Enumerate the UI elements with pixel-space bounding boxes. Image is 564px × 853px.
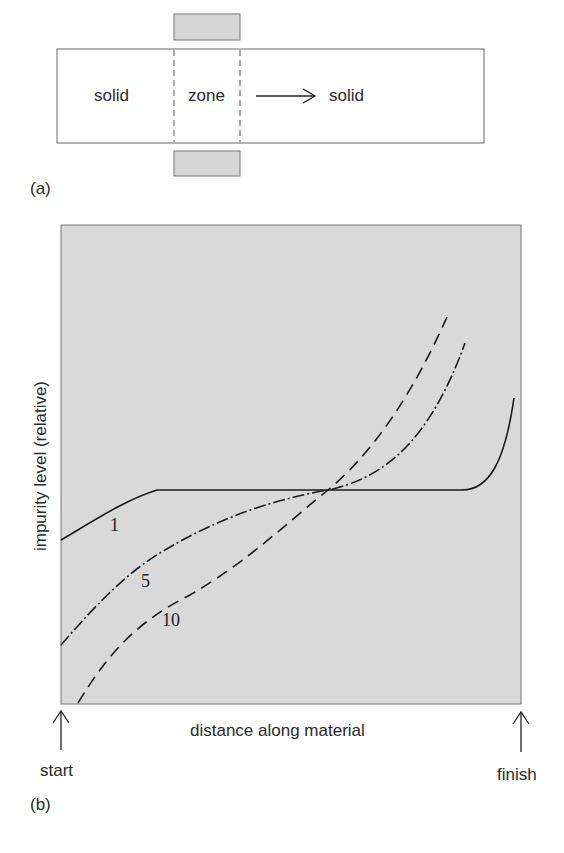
- curve-label-10: 10: [162, 611, 180, 629]
- panel-a-label: (a): [30, 180, 51, 197]
- x-axis-label: distance along material: [190, 722, 365, 739]
- start-label: start: [40, 762, 73, 779]
- curve-label-5: 5: [141, 572, 150, 590]
- top-heater-block: [174, 14, 240, 40]
- curve-5-passes: [61, 343, 465, 645]
- finish-label: finish: [497, 766, 537, 783]
- y-axis-label: impurity level (relative): [32, 381, 49, 551]
- curve-label-1: 1: [110, 516, 119, 534]
- finish-arrow-icon: [513, 712, 529, 752]
- curve-1-pass: [61, 398, 514, 540]
- left-solid-label: solid: [94, 87, 129, 104]
- right-solid-label: solid: [329, 87, 364, 104]
- panel-b-label: (b): [30, 796, 51, 813]
- chart-plot-area: [61, 225, 521, 704]
- zone-refining-schematic: [0, 0, 564, 200]
- zone-label: zone: [188, 87, 225, 104]
- curve-10-passes: [78, 317, 447, 703]
- bottom-heater-block: [174, 151, 240, 176]
- start-arrow-icon: [53, 711, 69, 750]
